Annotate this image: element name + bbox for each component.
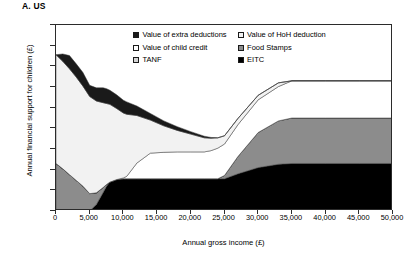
legend-row: Value of child credit Food Stamps (133, 42, 337, 55)
chart-legend: Value of extra deductions Value of HoH d… (133, 29, 337, 67)
legend-label: Value of HoH deduction (247, 30, 326, 39)
chart-figure: A. US Annual financial support for child… (0, 0, 410, 257)
legend-item-3: Food Stamps (238, 42, 337, 55)
x-tick-mark (156, 210, 157, 214)
x-tick-mark (358, 210, 359, 214)
legend-label: EITC (247, 55, 264, 64)
x-tick-mark (392, 210, 393, 214)
legend-label: Food Stamps (247, 43, 292, 52)
x-axis-label: Annual gross income (£) (55, 238, 392, 247)
x-tick-label: 50,000 (362, 213, 410, 222)
x-tick-mark (89, 210, 90, 214)
legend-label: TANF (143, 55, 162, 64)
x-tick-mark (325, 210, 326, 214)
legend-item-2: Value of child credit (133, 42, 238, 55)
legend-swatch-icon (133, 45, 139, 51)
y-axis-label: Annual financial support for children (£… (25, 26, 34, 196)
legend-item-5: EITC (238, 54, 337, 67)
legend-item-1: Value of HoH deduction (238, 29, 337, 42)
legend-item-0: Value of extra deductions (133, 29, 238, 42)
x-tick-mark (122, 210, 123, 214)
x-tick-mark (190, 210, 191, 214)
legend-item-4: TANF (133, 54, 238, 67)
legend-label: Value of extra deductions (143, 30, 227, 39)
legend-label: Value of child credit (143, 43, 208, 52)
x-tick-mark (224, 210, 225, 214)
x-tick-mark (55, 210, 56, 214)
legend-swatch-icon (133, 32, 139, 38)
legend-swatch-icon (133, 57, 139, 63)
legend-swatch-icon (238, 32, 244, 38)
legend-row: Value of extra deductions Value of HoH d… (133, 29, 337, 42)
x-tick-mark (291, 210, 292, 214)
panel-title: A. US (22, 1, 46, 11)
legend-row: TANF EITC (133, 54, 337, 67)
x-tick-mark (257, 210, 258, 214)
legend-swatch-icon (238, 45, 244, 51)
legend-swatch-icon (238, 57, 244, 63)
